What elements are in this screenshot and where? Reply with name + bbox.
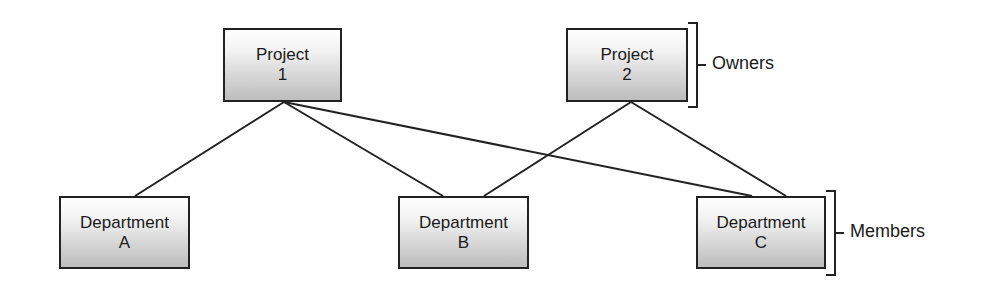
project-1-label: Project [256, 45, 309, 65]
owners-group-label: Owners [712, 53, 774, 74]
department-b-label: Department [419, 213, 508, 233]
project-2-number: 2 [622, 65, 631, 85]
link-project-2-department-b [484, 102, 631, 196]
project-1-number: 1 [278, 65, 287, 85]
project-1-node: Project 1 [223, 28, 342, 102]
link-project-1-department-b [284, 102, 443, 196]
department-a-label: Department [80, 213, 169, 233]
link-project-2-department-c [631, 102, 786, 196]
project-2-label: Project [601, 45, 654, 65]
department-c-node: Department C [696, 196, 826, 269]
department-b-node: Department B [398, 196, 529, 269]
department-c-label: Department [717, 213, 806, 233]
department-b-letter: B [458, 233, 469, 253]
members-bracket [826, 190, 836, 276]
members-group-label: Members [850, 221, 925, 242]
department-c-letter: C [755, 233, 767, 253]
project-2-node: Project 2 [566, 28, 688, 102]
owners-bracket [688, 22, 698, 108]
owners-bracket-tick [698, 64, 706, 66]
department-a-node: Department A [59, 196, 190, 269]
link-project-1-department-a [135, 102, 284, 196]
link-project-1-department-c [284, 102, 752, 196]
department-a-letter: A [119, 233, 130, 253]
members-bracket-tick [836, 232, 844, 234]
